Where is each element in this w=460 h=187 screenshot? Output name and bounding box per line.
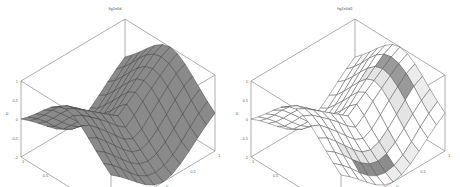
figure: fig1n0d -111-0.50.50.50000.5-0.5-0.51-1-…: [0, 0, 460, 187]
x-tick: 1: [448, 153, 451, 158]
plot-panel-left: fig1n0d -111-0.50.50.50000.5-0.5-0.51-1-…: [0, 0, 230, 187]
z-axis-label: u: [6, 111, 9, 116]
z-tick: 0.5: [242, 98, 248, 103]
x-tick: 0: [166, 184, 169, 187]
y-tick: 1: [252, 159, 255, 164]
z-tick: -0.5: [11, 136, 19, 141]
x-tick: 1: [218, 153, 221, 158]
surface: [21, 44, 215, 185]
x-tick: 0.5: [190, 169, 196, 174]
z-tick: 0: [16, 117, 19, 122]
z-tick: 0: [246, 117, 249, 122]
y-tick: 0.5: [43, 173, 49, 178]
surface-plot-left: -111-0.50.50.50000.5-0.5-0.51-1-1uyx: [0, 0, 230, 187]
surface-plot-right: -111-0.50.50.50000.5-0.5-0.51-1-1uyx: [230, 0, 460, 187]
z-axis-label: u: [236, 111, 239, 116]
y-tick: 0.5: [273, 173, 279, 178]
z-tick: 0.5: [12, 98, 18, 103]
x-tick: 0.5: [420, 169, 426, 174]
z-tick: 1: [16, 79, 19, 84]
plot-panel-right: fig1n0d1 -111-0.50.50.50000.5-0.5-0.51-1…: [230, 0, 460, 187]
x-tick: 0: [396, 184, 399, 187]
z-tick: -0.5: [241, 136, 249, 141]
z-tick: -1: [14, 155, 18, 160]
z-tick: 1: [246, 79, 249, 84]
surface: [251, 44, 445, 185]
y-tick: 1: [22, 159, 25, 164]
z-tick: -1: [244, 155, 248, 160]
